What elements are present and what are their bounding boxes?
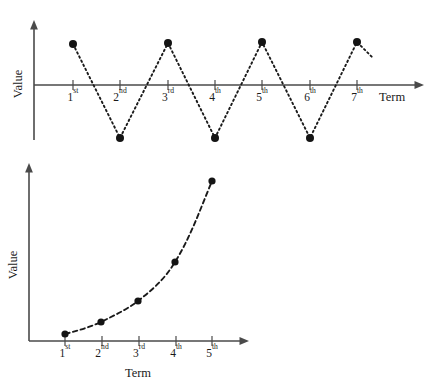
bottom-chart: 1st 2nd 3rd 4th 5th Term Value (6, 163, 249, 380)
bottom-chart-x-axis-arrowhead (240, 337, 250, 345)
x-tick-label: 3rd (162, 86, 174, 104)
bottom-chart-x-axis-title: Term (125, 366, 151, 380)
data-point (211, 134, 219, 142)
top-chart: 1st 2nd 3rd 4th 5th 6th 7th Term Value (11, 20, 424, 142)
figure-canvas: 1st 2nd 3rd 4th 5th 6th 7th Term Value (0, 0, 428, 388)
x-tick-label: 5th (256, 86, 268, 104)
bottom-chart-x-tick-labels: 1st 2nd 3rd 4th 5th (60, 342, 218, 360)
data-point (208, 177, 215, 184)
top-chart-x-axis-title: Term (379, 90, 405, 104)
x-tick-label: 6th (304, 86, 316, 104)
top-chart-x-axis-arrowhead (415, 81, 425, 89)
top-chart-y-axis-arrowhead (30, 20, 38, 30)
data-point (353, 38, 361, 46)
x-tick-label: 3rd (133, 342, 145, 360)
bottom-chart-y-axis-arrowhead (25, 163, 33, 173)
data-point (306, 134, 314, 142)
x-tick-label: 4th (209, 86, 221, 104)
data-point (116, 134, 124, 142)
x-tick-label: 5th (206, 342, 218, 360)
data-point (258, 38, 266, 46)
figure-root: 1st 2nd 3rd 4th 5th 6th 7th Term Value (0, 0, 428, 388)
data-point (97, 318, 104, 325)
bottom-chart-series-line (65, 181, 212, 334)
x-tick-label: 7th (351, 86, 363, 104)
bottom-chart-markers (61, 177, 215, 337)
data-point (171, 258, 178, 265)
top-chart-y-axis-title: Value (11, 69, 25, 98)
data-point (61, 330, 68, 337)
bottom-chart-y-axis-title: Value (6, 250, 20, 279)
x-tick-label: 1st (68, 86, 80, 104)
x-tick-label: 2nd (95, 342, 109, 360)
x-tick-label: 2nd (113, 86, 127, 104)
x-tick-label: 1st (60, 342, 72, 360)
data-point (164, 39, 172, 47)
x-tick-label: 4th (170, 342, 182, 360)
data-point (69, 40, 77, 48)
data-point (134, 297, 141, 304)
top-chart-x-tick-labels: 1st 2nd 3rd 4th 5th 6th 7th (68, 86, 363, 104)
top-chart-series-line (73, 42, 373, 138)
